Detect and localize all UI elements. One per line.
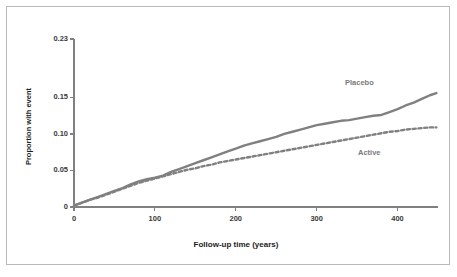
x-tick-label: 300 <box>297 214 337 223</box>
series-group <box>74 93 436 205</box>
x-tick-label: 0 <box>54 214 94 223</box>
x-tick-label: 200 <box>216 214 256 223</box>
y-tick-label: 0.10 <box>38 129 68 138</box>
y-tick-label: 0.05 <box>38 165 68 174</box>
y-axis-title-text: Proportion with event <box>25 87 34 164</box>
plot-area: 00.050.100.150.23 0100200300400 <box>0 0 457 277</box>
y-axis-title: Proportion with event <box>22 62 36 190</box>
x-tick-label: 400 <box>378 214 418 223</box>
series-annotation-placebo: Placebo <box>345 78 374 87</box>
y-tick-label: 0.15 <box>38 92 68 101</box>
series-annotation-active: Active <box>358 148 381 157</box>
chart-svg <box>0 0 457 277</box>
x-tick-label: 100 <box>135 214 175 223</box>
figure-container: 00.050.100.150.23 0100200300400 Proporti… <box>0 0 457 277</box>
y-tick-label: 0 <box>38 202 68 211</box>
series-line-active <box>74 127 436 205</box>
axes-group <box>70 39 438 211</box>
series-line-placebo <box>74 93 436 205</box>
x-axis-title: Follow-up time (years) <box>74 240 398 249</box>
y-tick-label: 0.23 <box>38 34 68 43</box>
